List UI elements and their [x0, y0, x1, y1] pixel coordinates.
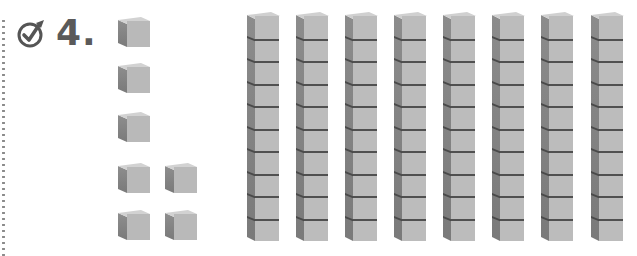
- dotted-margin-line: [2, 18, 5, 256]
- unit-cube: [118, 112, 150, 142]
- ten-rod: [247, 12, 280, 241]
- unit-cube: [118, 210, 150, 240]
- check-circle-icon: [17, 20, 45, 48]
- ten-rod: [591, 12, 624, 241]
- unit-cube: [118, 17, 150, 47]
- unit-cube: [165, 163, 197, 193]
- unit-cube: [118, 63, 150, 93]
- ten-rod: [296, 12, 329, 241]
- problem-number: 4.: [56, 13, 97, 53]
- ten-rod: [541, 12, 574, 241]
- unit-cube: [165, 210, 197, 240]
- ten-rod: [394, 12, 427, 241]
- unit-cube: [118, 163, 150, 193]
- ten-rod: [345, 12, 378, 241]
- ten-rod: [492, 12, 525, 241]
- ten-rod: [443, 12, 476, 241]
